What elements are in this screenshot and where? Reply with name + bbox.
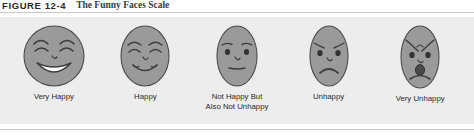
very-happy-face-icon: [21, 23, 87, 89]
figure-number-label: FIGURE 12-4: [2, 0, 66, 11]
scale-item-very-happy[interactable]: Very Happy: [8, 23, 100, 102]
figure-panel: Very Happy Happy: [0, 17, 474, 124]
faces-scale-row: Very Happy Happy: [0, 17, 474, 124]
figure-divider-bottom: [0, 129, 474, 130]
scale-label-very-unhappy: Very Unhappy: [396, 94, 445, 104]
neutral-face-icon: [208, 23, 266, 89]
figure-caption: FIGURE 12-4 The Funny Faces Scale: [0, 0, 474, 12]
scale-item-very-unhappy[interactable]: Very Unhappy: [374, 23, 466, 104]
scale-item-happy[interactable]: Happy: [100, 23, 192, 102]
scale-label-very-happy: Very Happy: [34, 92, 74, 102]
scale-item-neutral[interactable]: Not Happy But Also Not Unhappy: [191, 23, 283, 111]
happy-face-icon: [112, 23, 178, 89]
scale-label-unhappy: Unhappy: [313, 92, 344, 102]
very-unhappy-face-icon: [393, 23, 447, 91]
scale-label-neutral: Not Happy But Also Not Unhappy: [206, 92, 269, 111]
unhappy-face-icon: [302, 23, 356, 89]
figure-container: FIGURE 12-4 The Funny Faces Scale Very H…: [0, 0, 474, 138]
caption-divider-top: [0, 12, 474, 13]
figure-title-label: The Funny Faces Scale: [76, 0, 169, 10]
scale-item-unhappy[interactable]: Unhappy: [283, 23, 375, 102]
scale-label-happy: Happy: [134, 92, 157, 102]
